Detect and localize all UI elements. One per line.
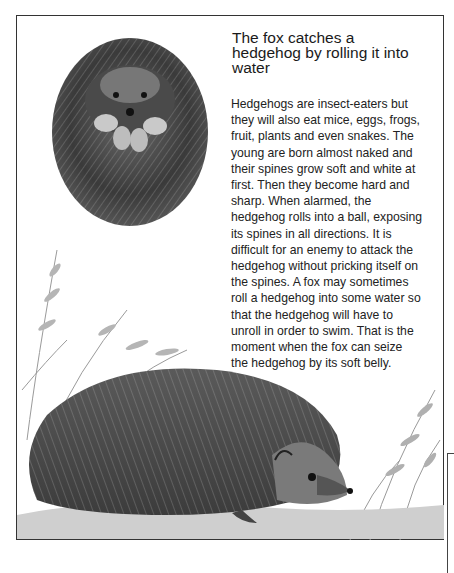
- body-line: hedgehog without pricking itself on: [231, 258, 445, 274]
- article-title: The fox catches a hedgehog by rolling it…: [232, 30, 442, 75]
- adjacent-page-rule: [447, 453, 454, 454]
- curled-hedgehog-illustration: [40, 30, 220, 230]
- article-body: Hedgehogs are insect-eaters but they wil…: [231, 96, 445, 371]
- body-line: young are born almost naked and: [231, 145, 445, 161]
- body-line: unroll in order to swim. That is the: [231, 323, 445, 339]
- title-line: The fox catches a: [232, 30, 442, 45]
- body-line: first. Then they become hard and: [231, 177, 445, 193]
- body-line: difficult for an enemy to attack the: [231, 242, 445, 258]
- title-line: hedgehog by rolling it into: [232, 45, 442, 60]
- body-line: Hedgehogs are insect-eaters but: [231, 96, 445, 112]
- body-line: roll a hedgehog into some water so: [231, 290, 445, 306]
- body-line: that the hedgehog will have to: [231, 307, 445, 323]
- body-line: moment when the fox can seize: [231, 339, 445, 355]
- body-line: they will also eat mice, eggs, frogs,: [231, 112, 445, 128]
- body-line: hedgehog rolls into a ball, exposing: [231, 209, 445, 225]
- body-line: the spines. A fox may sometimes: [231, 274, 445, 290]
- body-line: its spines in all directions. It is: [231, 226, 445, 242]
- adjacent-page-edge: [447, 453, 448, 573]
- body-line: sharp. When alarmed, the: [231, 193, 445, 209]
- body-line: fruit, plants and even snakes. The: [231, 128, 445, 144]
- title-line: water: [232, 60, 442, 75]
- body-line: their spines grow soft and white at: [231, 161, 445, 177]
- walking-hedgehog-illustration: [17, 365, 444, 539]
- body-line: the hedgehog by its soft belly.: [231, 355, 445, 371]
